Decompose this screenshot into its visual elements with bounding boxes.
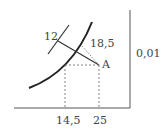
label-18-5: 18,5 bbox=[90, 37, 115, 50]
indifference-diagram: 12 18,5 A 0,01 14,5 25 bbox=[0, 0, 162, 131]
label-x-tick-1: 14,5 bbox=[56, 114, 81, 127]
label-right-axis: 0,01 bbox=[136, 47, 161, 60]
label-x-tick-2: 25 bbox=[93, 114, 107, 127]
label-12: 12 bbox=[44, 30, 58, 43]
label-point-A: A bbox=[101, 58, 111, 71]
